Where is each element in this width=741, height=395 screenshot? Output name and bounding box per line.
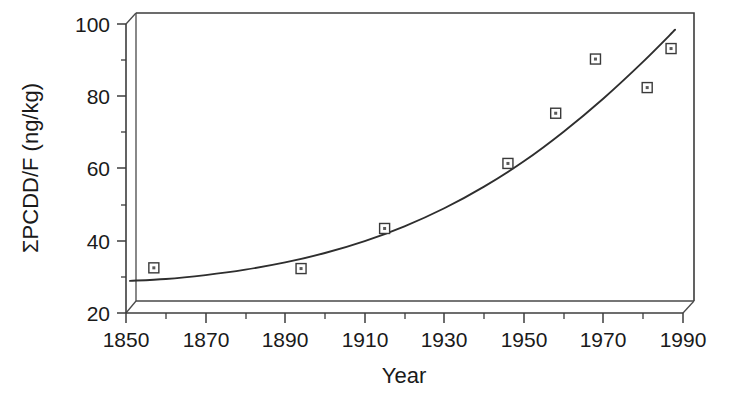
frame-back-left-bottom	[136, 13, 694, 301]
y-tick-label-40: 40	[87, 230, 110, 253]
scatter-plot-canvas: 100 80 60 40 20 1850 1870 1890 1910 1930…	[0, 0, 741, 395]
data-point-marker	[296, 264, 306, 274]
x-tick-label-1950: 1950	[501, 328, 548, 351]
x-tick-label-1930: 1930	[421, 328, 468, 351]
x-tick-label-1910: 1910	[342, 328, 389, 351]
frame-connector-top-left	[126, 13, 136, 24]
y-tick-label-20: 20	[87, 302, 110, 325]
data-point-marker	[149, 263, 159, 273]
x-axis-tick-labels: 1850 1870 1890 1910 1930 1950 1970 1990	[103, 328, 707, 351]
y-tick-label-100: 100	[75, 13, 110, 36]
fit-curve-group	[130, 30, 675, 281]
plot-frame-3d-offset	[126, 13, 694, 313]
y-axis-ticks	[117, 24, 126, 313]
data-point-markers	[149, 44, 676, 274]
x-tick-label-1850: 1850	[103, 328, 150, 351]
data-point-marker	[666, 44, 676, 54]
marker-center-dot	[383, 227, 386, 230]
y-axis-title: ΣPCDD/F (ng/kg)	[18, 83, 43, 253]
x-tick-label-1990: 1990	[660, 328, 707, 351]
marker-center-dot	[594, 58, 597, 61]
marker-center-dot	[300, 267, 303, 270]
marker-center-dot	[152, 266, 155, 269]
frame-connector-bottom-left	[126, 301, 136, 313]
data-point-marker	[590, 54, 600, 64]
y-tick-label-60: 60	[87, 157, 110, 180]
marker-center-dot	[646, 86, 649, 89]
marker-center-dot	[670, 47, 673, 50]
frame-connector-bottom-right	[683, 301, 694, 313]
data-point-marker	[380, 223, 390, 233]
x-axis-ticks	[126, 313, 683, 323]
x-axis-title: Year	[382, 363, 426, 388]
plot-frame-front	[126, 24, 683, 313]
frame-back-top-right	[136, 13, 694, 301]
data-point-marker	[503, 158, 513, 168]
x-tick-label-1970: 1970	[580, 328, 627, 351]
y-axis-tick-labels: 100 80 60 40 20	[75, 13, 110, 325]
data-point-marker	[551, 108, 561, 118]
y-tick-label-80: 80	[87, 85, 110, 108]
x-tick-label-1870: 1870	[183, 328, 230, 351]
marker-center-dot	[506, 162, 509, 165]
fitted-trend-line	[130, 30, 675, 281]
x-tick-label-1890: 1890	[262, 328, 309, 351]
chart-figure: 100 80 60 40 20 1850 1870 1890 1910 1930…	[0, 0, 741, 395]
data-point-marker	[642, 83, 652, 93]
marker-center-dot	[554, 112, 557, 115]
